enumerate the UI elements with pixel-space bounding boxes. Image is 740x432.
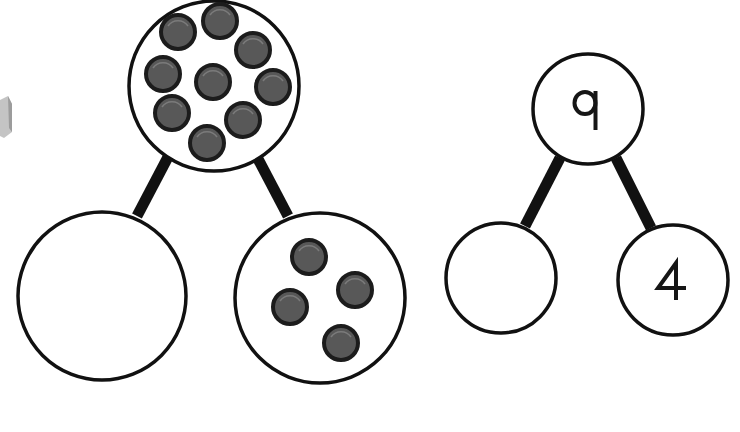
counter — [155, 96, 189, 130]
connector-right — [616, 158, 651, 228]
counter — [338, 273, 372, 307]
counter-part-whole-model — [18, 1, 405, 383]
counter — [190, 126, 224, 160]
cropped-cube-object — [0, 96, 12, 138]
counter — [273, 290, 307, 324]
counter — [161, 15, 195, 49]
counter — [236, 33, 270, 67]
number-part-whole-model — [446, 54, 728, 335]
part-number-circle-left[interactable] — [446, 223, 556, 333]
connector-left — [525, 158, 560, 226]
counter — [196, 65, 230, 99]
counter — [226, 103, 260, 137]
part-whole-models — [0, 0, 740, 432]
counter — [203, 4, 237, 38]
counter — [256, 70, 290, 104]
part-number-circle-right[interactable] — [618, 225, 728, 335]
counter — [146, 57, 180, 91]
counter — [292, 240, 326, 274]
part-circle-left[interactable] — [18, 212, 186, 380]
whole-number-circle[interactable] — [533, 54, 643, 164]
part-circle-right[interactable] — [235, 213, 405, 383]
counter — [324, 326, 358, 360]
connector-left — [137, 157, 168, 216]
connector-right — [257, 157, 288, 216]
